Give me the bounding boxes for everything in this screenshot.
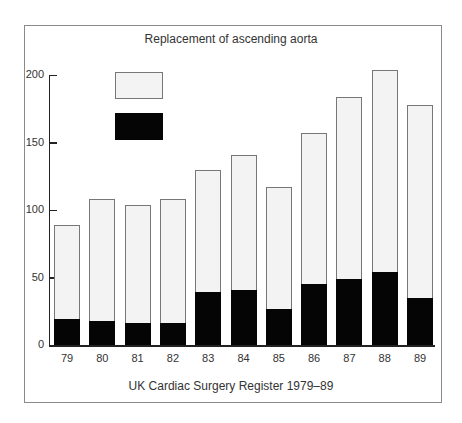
bar-dark-segment — [266, 309, 292, 345]
y-tick — [49, 142, 57, 144]
bar-dark-segment — [407, 298, 433, 345]
x-tick-label: 86 — [301, 352, 327, 364]
x-tick-label: 89 — [407, 352, 433, 364]
x-tick-label: 88 — [372, 352, 398, 364]
y-tick-label: 50 — [22, 271, 44, 283]
x-tick-label: 83 — [195, 352, 221, 364]
bar-dark-segment — [301, 284, 327, 345]
x-tick-label: 79 — [54, 352, 80, 364]
legend-swatch-dark — [115, 113, 163, 140]
bar-dark-segment — [89, 321, 115, 345]
bar-dark-segment — [160, 323, 186, 345]
bar-dark-segment — [125, 323, 151, 345]
chart-caption: UK Cardiac Surgery Register 1979–89 — [0, 379, 462, 393]
y-tick-label: 100 — [22, 203, 44, 215]
x-tick-label: 80 — [89, 352, 115, 364]
y-tick-label: 150 — [22, 136, 44, 148]
y-tick — [49, 75, 57, 77]
y-tick — [49, 210, 57, 212]
chart-title: Replacement of ascending aorta — [0, 32, 462, 46]
legend-swatch-light — [115, 72, 163, 99]
x-tick-label: 84 — [231, 352, 257, 364]
y-tick-label: 200 — [22, 68, 44, 80]
y-tick-label: 0 — [22, 338, 44, 350]
bar-dark-segment — [372, 272, 398, 345]
x-tick-label: 87 — [336, 352, 362, 364]
x-axis — [49, 345, 435, 347]
bar-dark-segment — [54, 319, 80, 345]
x-tick-label: 82 — [160, 352, 186, 364]
x-tick-label: 85 — [266, 352, 292, 364]
x-tick-label: 81 — [125, 352, 151, 364]
bar-dark-segment — [336, 279, 362, 345]
bar-dark-segment — [231, 290, 257, 345]
bar-dark-segment — [195, 292, 221, 345]
